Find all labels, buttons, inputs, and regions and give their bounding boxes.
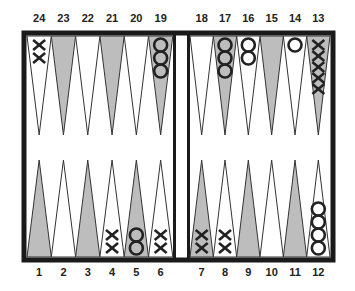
point-9[interactable]: [237, 160, 260, 257]
top-point-label: 21: [100, 12, 124, 24]
backgammon-board: [0, 0, 355, 291]
point-23[interactable]: [51, 36, 75, 135]
point-22[interactable]: [76, 36, 100, 135]
top-point-label: 16: [236, 12, 260, 24]
bottom-point-label: 1: [27, 266, 51, 278]
top-point-label: 14: [283, 12, 307, 24]
bottom-point-label: 9: [236, 266, 260, 278]
point-11[interactable]: [283, 160, 306, 257]
bottom-point-label: 11: [283, 266, 307, 278]
top-point-label: 20: [124, 12, 148, 24]
bottom-point-label: 12: [306, 266, 330, 278]
top-point-label: 23: [51, 12, 75, 24]
point-10[interactable]: [260, 160, 283, 257]
bottom-point-label: 5: [124, 266, 148, 278]
bottom-point-label: 8: [213, 266, 237, 278]
point-3[interactable]: [76, 160, 100, 257]
top-point-label: 13: [306, 12, 330, 24]
top-point-label: 22: [76, 12, 100, 24]
top-point-label: 24: [27, 12, 51, 24]
point-18[interactable]: [190, 36, 213, 135]
point-21[interactable]: [100, 36, 124, 135]
top-point-label: 15: [260, 12, 284, 24]
bottom-point-label: 6: [149, 266, 173, 278]
bottom-point-label: 7: [190, 266, 214, 278]
point-20[interactable]: [124, 36, 148, 135]
point-24[interactable]: [27, 36, 51, 135]
point-2[interactable]: [51, 160, 75, 257]
bottom-point-label: 3: [76, 266, 100, 278]
point-1[interactable]: [27, 160, 51, 257]
bottom-point-label: 10: [260, 266, 284, 278]
top-point-label: 19: [149, 12, 173, 24]
point-7[interactable]: [190, 160, 213, 257]
point-4[interactable]: [100, 160, 124, 257]
bottom-point-label: 4: [100, 266, 124, 278]
bottom-point-label: 2: [51, 266, 75, 278]
point-13[interactable]: [307, 36, 330, 135]
point-8[interactable]: [213, 160, 236, 257]
point-15[interactable]: [260, 36, 283, 135]
top-point-label: 18: [190, 12, 214, 24]
point-6[interactable]: [149, 160, 173, 257]
top-point-label: 17: [213, 12, 237, 24]
